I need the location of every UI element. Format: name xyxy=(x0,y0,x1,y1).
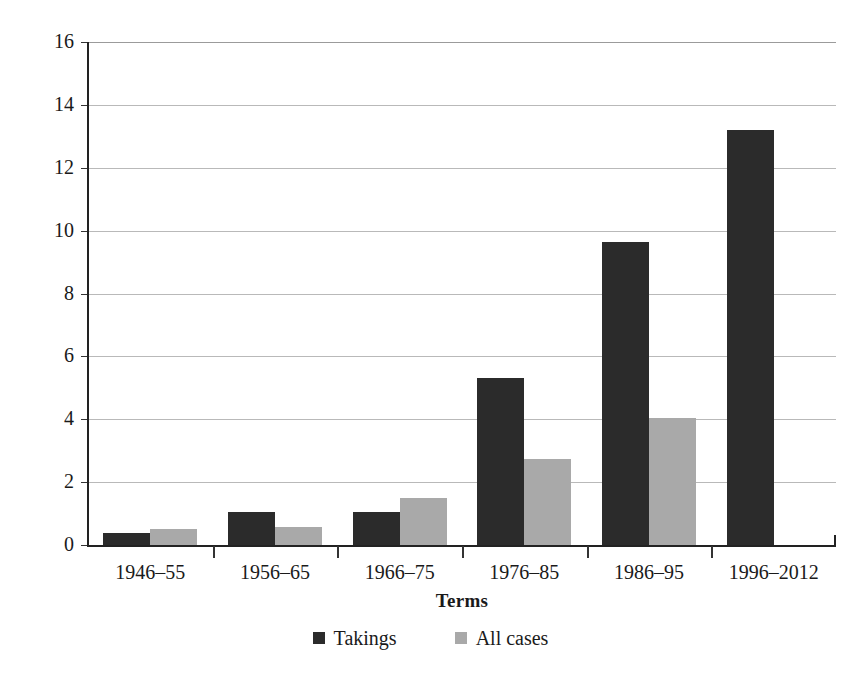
y-tick-label-8: 8 xyxy=(40,283,74,303)
x-tick-label-1966–75: 1966–75 xyxy=(337,560,462,584)
y-tick-label-10: 10 xyxy=(40,220,74,240)
legend-swatch-icon-takings xyxy=(313,632,325,644)
y-tick-label-16: 16 xyxy=(40,31,74,51)
x-tick-label-1976–85: 1976–85 xyxy=(462,560,587,584)
x-axis-left-endcap xyxy=(87,535,89,547)
bar-all-cases-1976–85 xyxy=(524,459,571,545)
x-tick-label-1986–95: 1986–95 xyxy=(587,560,712,584)
bar-all-cases-1956–65 xyxy=(275,527,322,545)
bar-takings-1946–55 xyxy=(103,533,150,545)
bar-all-cases-1946–55 xyxy=(150,529,197,545)
bar-takings-1976–85 xyxy=(477,378,524,545)
legend-label: Takings xyxy=(334,628,397,648)
bar-takings-1986–95 xyxy=(602,242,649,545)
x-tick-label-1956–65: 1956–65 xyxy=(213,560,338,584)
bar-takings-1996–2012 xyxy=(727,130,774,545)
x-tick-label-1946–55: 1946–55 xyxy=(88,560,213,584)
bars-layer xyxy=(88,42,836,545)
y-tick-label-0: 0 xyxy=(40,534,74,554)
x-axis-right-endcap xyxy=(834,535,836,547)
bar-takings-1966–75 xyxy=(353,512,400,545)
x-tick-mark-1 xyxy=(213,546,215,558)
legend-entry-all-cases: All cases xyxy=(455,628,549,648)
x-tick-mark-4 xyxy=(587,546,589,558)
y-tick-label-14: 14 xyxy=(40,94,74,114)
x-axis-title: Terms xyxy=(88,590,836,612)
x-tick-label-1996–2012: 1996–2012 xyxy=(711,560,836,584)
legend-swatch-icon-allcases xyxy=(455,632,467,644)
bar-all-cases-1986–95 xyxy=(649,418,696,545)
x-tick-mark-5 xyxy=(711,546,713,558)
bar-chart-figure: Mean # per case 0246810121416 1946–55195… xyxy=(0,0,861,687)
y-tick-label-6: 6 xyxy=(40,345,74,365)
chart-legend: TakingsAll cases xyxy=(0,628,861,648)
bar-all-cases-1966–75 xyxy=(400,498,447,545)
bar-takings-1956–65 xyxy=(228,512,275,545)
x-tick-mark-2 xyxy=(337,546,339,558)
y-tick-label-12: 12 xyxy=(40,157,74,177)
legend-label: All cases xyxy=(476,628,549,648)
y-tick-label-2: 2 xyxy=(40,471,74,491)
y-axis-title: Mean # per case xyxy=(0,0,41,84)
y-tick-label-4: 4 xyxy=(40,408,74,428)
legend-entry-takings: Takings xyxy=(313,628,397,648)
x-tick-mark-3 xyxy=(462,546,464,558)
